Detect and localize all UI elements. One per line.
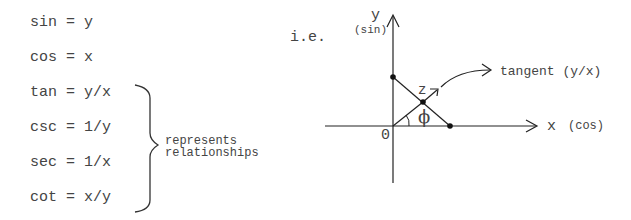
tangent-pointer-arrow bbox=[441, 70, 490, 87]
point-y-intercept bbox=[390, 74, 396, 80]
x-axis-label: x bbox=[547, 119, 556, 134]
tangent-label: tangent (y/x) bbox=[500, 65, 601, 78]
curly-brace bbox=[135, 85, 158, 212]
y-axis-label: y bbox=[371, 8, 380, 23]
angle-arc bbox=[406, 115, 409, 126]
point-x-intercept bbox=[447, 123, 453, 129]
x-axis-sublabel: (cos) bbox=[568, 120, 604, 132]
unit-circle-diagram bbox=[0, 0, 631, 220]
point-z bbox=[420, 99, 426, 105]
angle-label: ϕ bbox=[418, 108, 430, 126]
origin-label: 0 bbox=[381, 128, 390, 143]
y-axis-sublabel: (sin) bbox=[354, 25, 387, 36]
point-z-label: z bbox=[418, 83, 426, 97]
